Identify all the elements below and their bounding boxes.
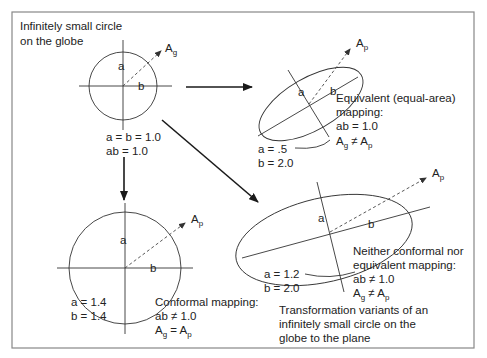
conformal-value-line-2: b = 1.4 xyxy=(71,310,107,322)
conformal-desc-line-2: ab ≠ 1.0 xyxy=(155,310,196,322)
caption-line-2: infinitely small circle on the xyxy=(279,318,416,330)
conformal-value-line-1: a = 1.4 xyxy=(71,296,107,308)
neither-label-a: a xyxy=(318,212,325,224)
neither-value-line-2: b = 2.0 xyxy=(264,282,300,294)
globe-area-label: Ag xyxy=(165,42,177,57)
figure-title-line-2: on the globe xyxy=(20,35,83,47)
equivalent-ellipse-group: a b Ap a = .5 b = 2.0 Equivalent (equal-… xyxy=(248,37,456,169)
caption-line-1: Transformation variants of an xyxy=(279,304,428,316)
equivalent-value-line-2: b = 2.0 xyxy=(258,157,294,169)
conformal-circle-group: a b Ap a = 1.4 b = 1.4 Conformal mapping… xyxy=(57,203,259,339)
neither-desc-line-2: equivalent mapping: xyxy=(353,259,456,271)
neither-area-label: Ap xyxy=(432,167,445,182)
diagram-canvas: Infinitely small circle on the globe a b… xyxy=(0,0,487,358)
equivalent-desc-line-1: Equivalent (equal-area) xyxy=(336,92,456,104)
equivalent-label-a: a xyxy=(298,86,305,98)
equivalent-relation: Ag ≠ Ap xyxy=(336,135,373,150)
equivalent-desc-line-2: mapping: xyxy=(336,106,383,118)
neither-relation: Ag ≠ Ap xyxy=(353,287,390,302)
globe-value-line-2: ab = 1.0 xyxy=(106,145,148,157)
equivalent-leader-line xyxy=(295,140,330,148)
arrow-to-neither xyxy=(162,120,258,202)
neither-leader-line xyxy=(305,272,355,277)
neither-desc-line-1: Neither conformal nor xyxy=(353,245,464,257)
globe-value-line-1: a = b = 1.0 xyxy=(106,131,161,143)
globe-label-a: a xyxy=(118,60,125,72)
neither-area-vector xyxy=(330,178,426,232)
equivalent-area-label: Ap xyxy=(356,37,369,52)
equivalent-desc-line-3: ab = 1.0 xyxy=(336,120,378,132)
figure-title-line-1: Infinitely small circle xyxy=(20,20,122,32)
neither-ellipse-group: a b Ap a = 1.2 b = 2.0 Neither conformal… xyxy=(227,167,464,302)
equivalent-a-axis xyxy=(288,70,329,137)
conformal-label-a: a xyxy=(120,234,127,246)
equivalent-value-line-1: a = .5 xyxy=(258,143,287,155)
globe-circle-group: a b Ag a = b = 1.0 ab = 1.0 xyxy=(79,40,177,157)
caption-line-3: globe to the plane xyxy=(279,332,370,344)
neither-label-b: b xyxy=(368,218,374,230)
neither-desc-line-3: ab ≠ 1.0 xyxy=(353,273,394,285)
conformal-desc-line-1: Conformal mapping: xyxy=(155,296,259,308)
globe-label-b: b xyxy=(138,80,144,92)
neither-value-line-1: a = 1.2 xyxy=(264,268,300,280)
conformal-relation: Ag = Ap xyxy=(155,324,192,339)
conformal-label-b: b xyxy=(150,262,156,274)
conformal-area-label: Ap xyxy=(191,213,204,228)
